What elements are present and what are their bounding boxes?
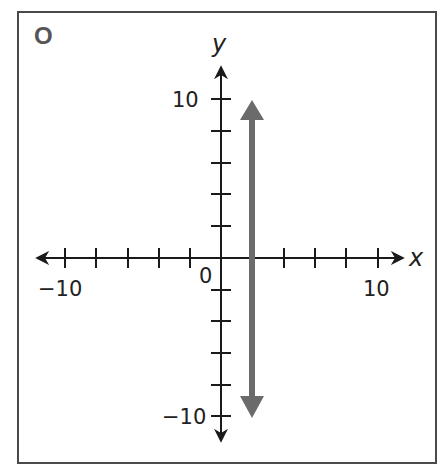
- x-max-label: 10: [363, 277, 390, 301]
- y-axis-name: y: [211, 30, 227, 58]
- origin-label: 0: [199, 264, 212, 288]
- y-max-label: 10: [172, 88, 199, 112]
- y-min-label: −10: [162, 405, 206, 429]
- coordinate-plane: y x 10 −10 −10 10 0: [0, 0, 445, 472]
- x-axis-name: x: [408, 244, 424, 272]
- x-min-label: −10: [38, 277, 82, 301]
- line-arrow-up-icon: [240, 100, 264, 120]
- line-arrow-down-icon: [240, 396, 264, 418]
